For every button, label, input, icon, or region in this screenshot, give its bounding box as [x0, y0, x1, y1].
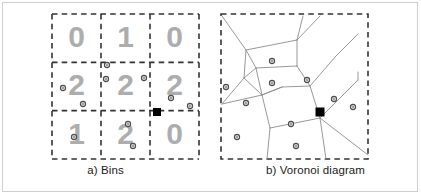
bins-plot: 010222120	[0, 0, 211, 165]
bin-count-0-2: 0	[166, 20, 183, 53]
voronoi-edge-11	[244, 78, 262, 95]
voronoi-site-6-center	[352, 106, 354, 108]
data-point-8-center	[127, 123, 129, 125]
data-point-9-center	[132, 145, 134, 147]
panel-bins: 010222120 a) Bins	[0, 0, 211, 196]
voronoi-edge-0	[222, 16, 246, 50]
voronoi-edge-5	[246, 50, 256, 68]
bin-count-labels: 010222120	[68, 20, 183, 150]
data-point-3-center	[82, 103, 84, 105]
panel-voronoi-caption: b) Voronoi diagram	[210, 163, 421, 177]
voronoi-edge-19	[270, 118, 320, 128]
bin-count-1-0: 2	[68, 68, 85, 101]
voronoi-edges	[222, 16, 368, 159]
voronoi-site-3-center	[245, 102, 247, 104]
voronoi-edge-6	[256, 66, 297, 68]
voronoi-site-2-center	[225, 86, 227, 88]
voronoi-site-7-center	[236, 136, 238, 138]
voronoi-edge-1	[244, 50, 246, 78]
bin-count-2-2: 0	[166, 117, 183, 150]
data-point-0-center	[106, 64, 108, 66]
voronoi-edge-21	[320, 118, 326, 159]
voronoi-site-9-center	[295, 145, 297, 147]
data-point-4-center	[143, 77, 145, 79]
data-point-7-center	[73, 136, 75, 138]
voronoi-edge-20	[262, 87, 282, 95]
voronoi-plot	[210, 0, 421, 165]
voronoi-edge-12	[256, 68, 262, 95]
voronoi-site-4-center	[306, 79, 308, 81]
voronoi-edge-10	[244, 68, 256, 78]
panel-bins-caption: a) Bins	[0, 163, 211, 177]
voronoi-edge-8	[297, 66, 310, 86]
bin-count-2-0: 1	[68, 117, 85, 150]
voronoi-edge-23	[336, 34, 358, 56]
voronoi-data-points	[223, 58, 355, 148]
panel-voronoi: b) Voronoi diagram	[210, 0, 421, 196]
voronoi-edge-17	[282, 86, 310, 87]
query-point-marker	[153, 108, 161, 116]
bin-count-1-1: 2	[117, 68, 134, 101]
voronoi-edge-3	[246, 40, 297, 50]
voronoi-edge-14	[262, 95, 270, 128]
data-point-2-center	[62, 87, 64, 89]
voronoi-site-1-center	[271, 82, 273, 84]
bin-count-0-0: 0	[68, 20, 85, 53]
bins-query-point	[153, 108, 161, 116]
voronoi-site-8-center	[290, 123, 292, 125]
voronoi-edge-26	[320, 118, 368, 155]
data-point-1-center	[105, 78, 107, 80]
query-point-marker	[316, 108, 325, 117]
voronoi-edge-15	[267, 128, 270, 159]
bin-count-0-1: 1	[117, 20, 134, 53]
data-point-5-center	[170, 97, 172, 99]
data-point-6-center	[189, 105, 191, 107]
voronoi-edge-22	[310, 56, 336, 86]
voronoi-site-5-center	[333, 98, 335, 100]
voronoi-site-0-center	[271, 60, 273, 62]
voronoi-edge-24	[320, 80, 358, 118]
figure-root: 010222120 a) Bins b) Voronoi diagram	[0, 0, 421, 196]
voronoi-query-point	[316, 108, 325, 117]
